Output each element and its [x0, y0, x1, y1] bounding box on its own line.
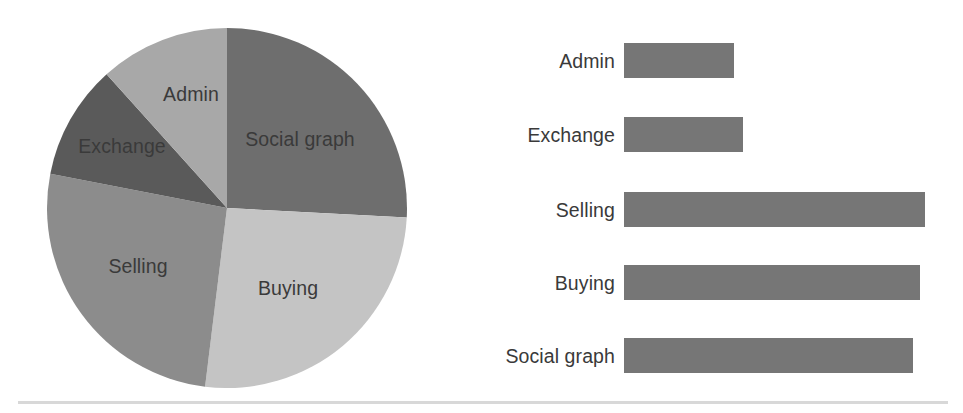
- bar-row-selling: Selling: [470, 192, 963, 227]
- bar-social-graph[interactable]: [624, 338, 913, 373]
- bar-label-social-graph: Social graph: [505, 344, 615, 367]
- pie-chart: Social graphBuyingSellingExchangeAdmin: [0, 0, 470, 413]
- bar-selling[interactable]: [624, 192, 925, 227]
- figure-container: Social graphBuyingSellingExchangeAdmin A…: [0, 0, 963, 413]
- bar-label-admin: Admin: [559, 49, 615, 72]
- bar-label-exchange: Exchange: [527, 123, 615, 146]
- bar-row-social-graph: Social graph: [470, 338, 963, 373]
- bar-row-buying: Buying: [470, 265, 963, 300]
- pie-chart-svg: [47, 28, 407, 388]
- pie-slice-social-graph[interactable]: [227, 28, 407, 217]
- pie-slice-buying[interactable]: [205, 208, 407, 388]
- bottom-divider: [18, 401, 948, 404]
- bar-chart: AdminExchangeSellingBuyingSocial graph: [470, 0, 963, 413]
- bar-exchange[interactable]: [624, 117, 743, 152]
- bar-label-selling: Selling: [556, 198, 615, 221]
- bar-row-admin: Admin: [470, 43, 963, 78]
- bar-label-buying: Buying: [555, 271, 615, 294]
- bar-admin[interactable]: [624, 43, 734, 78]
- pie-slice-group: [47, 28, 407, 388]
- bar-buying[interactable]: [624, 265, 920, 300]
- pie-slice-selling[interactable]: [47, 174, 227, 387]
- bar-row-exchange: Exchange: [470, 117, 963, 152]
